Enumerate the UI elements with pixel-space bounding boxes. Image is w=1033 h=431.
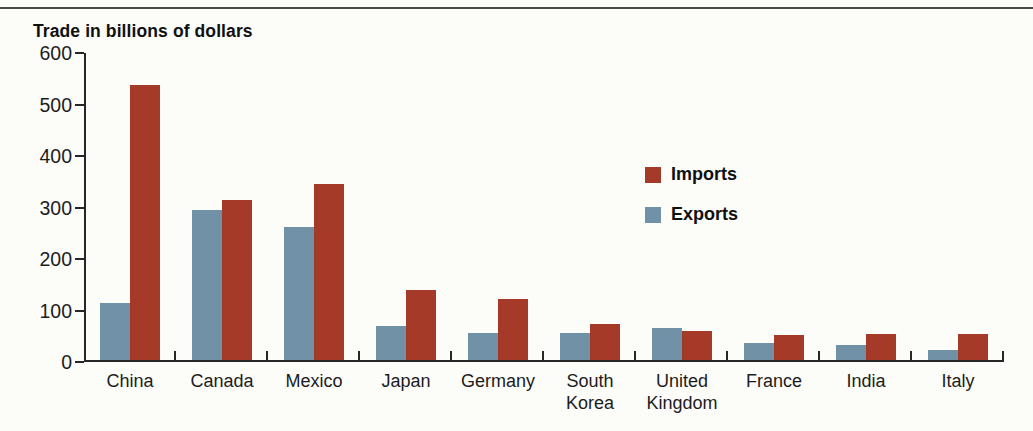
y-tick xyxy=(75,258,84,260)
x-tick xyxy=(542,351,544,360)
x-axis xyxy=(84,360,1004,362)
legend-item-exports: Exports xyxy=(645,204,738,225)
x-tick xyxy=(450,351,452,360)
category-label-united-kingdom: United Kingdom xyxy=(636,370,728,414)
y-tick xyxy=(75,361,84,363)
category-label-germany: Germany xyxy=(452,370,544,392)
y-tick-label: 500 xyxy=(22,93,72,117)
chart-title: Trade in billions of dollars xyxy=(33,21,253,42)
x-tick xyxy=(818,351,820,360)
legend-label-imports: Imports xyxy=(671,164,737,185)
category-label-china: China xyxy=(84,370,176,392)
bar-exports-mexico xyxy=(284,227,314,360)
bar-exports-india xyxy=(836,345,866,360)
y-tick xyxy=(75,104,84,106)
legend-item-imports: Imports xyxy=(645,164,738,185)
y-tick-label: 0 xyxy=(22,350,72,374)
bar-imports-japan xyxy=(406,290,436,360)
bar-exports-canada xyxy=(192,210,222,360)
y-tick-label: 100 xyxy=(22,299,72,323)
legend: ImportsExports xyxy=(645,164,738,225)
legend-swatch-exports xyxy=(645,207,661,223)
bar-imports-france xyxy=(774,335,804,360)
bar-exports-france xyxy=(744,343,774,360)
bar-imports-italy xyxy=(958,334,988,360)
bar-imports-germany xyxy=(498,299,528,360)
bar-exports-italy xyxy=(928,350,958,360)
category-label-south-korea: South Korea xyxy=(544,370,636,414)
bar-exports-united-kingdom xyxy=(652,328,682,360)
bar-imports-china xyxy=(130,85,160,360)
bar-exports-china xyxy=(100,303,130,360)
y-tick-label: 300 xyxy=(22,196,72,220)
x-tick xyxy=(266,351,268,360)
bar-imports-united-kingdom xyxy=(682,331,712,360)
bar-imports-canada xyxy=(222,200,252,360)
x-tick xyxy=(634,351,636,360)
x-tick xyxy=(174,351,176,360)
bar-exports-south-korea xyxy=(560,333,590,360)
page: Trade in billions of dollars 01002003004… xyxy=(0,0,1033,431)
y-tick-label: 400 xyxy=(22,144,72,168)
x-tick xyxy=(910,351,912,360)
y-axis xyxy=(84,53,86,362)
y-tick xyxy=(75,207,84,209)
y-tick-label: 600 xyxy=(22,41,72,65)
category-label-france: France xyxy=(728,370,820,392)
x-tick xyxy=(358,351,360,360)
legend-label-exports: Exports xyxy=(671,204,738,225)
category-label-italy: Italy xyxy=(912,370,1004,392)
bar-imports-south-korea xyxy=(590,324,620,360)
category-label-canada: Canada xyxy=(176,370,268,392)
y-tick xyxy=(75,310,84,312)
x-tick xyxy=(726,351,728,360)
category-label-india: India xyxy=(820,370,912,392)
bar-exports-germany xyxy=(468,333,498,360)
category-label-mexico: Mexico xyxy=(268,370,360,392)
plot-area: 0100200300400500600ChinaCanadaMexicoJapa… xyxy=(84,53,1004,362)
bar-exports-japan xyxy=(376,326,406,360)
top-rule xyxy=(0,7,1033,9)
y-tick-label: 200 xyxy=(22,247,72,271)
x-tick xyxy=(1002,351,1004,360)
legend-swatch-imports xyxy=(645,167,661,183)
category-label-japan: Japan xyxy=(360,370,452,392)
bar-imports-india xyxy=(866,334,896,360)
y-tick xyxy=(75,155,84,157)
y-tick xyxy=(75,52,84,54)
bar-imports-mexico xyxy=(314,184,344,360)
